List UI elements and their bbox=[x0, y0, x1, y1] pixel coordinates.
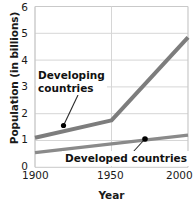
population-line-chart: Population (in billions) 6 5 4 3 2 1 0 1… bbox=[0, 0, 195, 206]
annotation-leader-developed bbox=[133, 136, 148, 152]
annotation-developing-line1: Developing bbox=[38, 69, 105, 82]
plot-area bbox=[0, 0, 195, 206]
annotation-developing-countries: Developing countries bbox=[36, 68, 107, 95]
annotation-developing-line2: countries bbox=[38, 82, 105, 95]
annotation-developed-countries: Developed countries bbox=[62, 151, 190, 166]
annotation-leader-developing bbox=[61, 95, 78, 128]
